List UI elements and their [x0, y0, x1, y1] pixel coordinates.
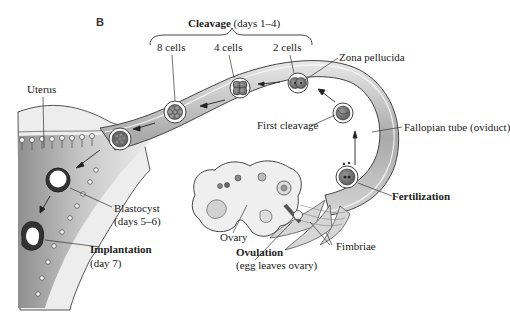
cell-first-cleavage — [333, 103, 353, 123]
label-ovary: Ovary — [220, 231, 248, 244]
cell-morula — [109, 128, 131, 150]
cell-2-cells — [288, 73, 308, 93]
label-ovulation-note: (egg leaves ovary) — [236, 259, 317, 272]
released-egg — [294, 211, 303, 220]
implanting-embryo — [22, 222, 44, 250]
label-implantation-day: (day 7) — [90, 257, 121, 270]
label-fertilization: Fertilization — [392, 190, 450, 203]
cleavage-title-bold: Cleavage — [188, 17, 231, 29]
label-first-cleavage: First cleavage — [257, 119, 318, 132]
label-uterus: Uterus — [27, 83, 56, 96]
cell-fertilized-egg — [336, 162, 358, 188]
label-8-cells: 8 cells — [157, 41, 185, 54]
label-fallopian-tube: Fallopian tube (oviduct) — [404, 121, 510, 134]
label-ovulation: Ovulation — [236, 246, 283, 259]
cleavage-title-days: (days 1–4) — [231, 17, 281, 29]
blastocyst-shape — [46, 168, 70, 192]
cell-8-cells — [164, 101, 186, 123]
label-blastocyst-days: (days 5–6) — [114, 215, 161, 228]
panel-letter: B — [96, 16, 104, 28]
label-implantation: Implantation — [90, 243, 152, 256]
cell-4-cells — [230, 78, 250, 98]
label-4-cells: 4 cells — [214, 41, 242, 54]
label-blastocyst: Blastocyst — [114, 202, 160, 215]
label-2-cells: 2 cells — [273, 41, 301, 54]
label-zona-pellucida: Zona pellucida — [339, 51, 405, 64]
label-fimbriae: Fimbriae — [336, 240, 376, 253]
cleavage-title: Cleavage (days 1–4) — [188, 17, 280, 30]
